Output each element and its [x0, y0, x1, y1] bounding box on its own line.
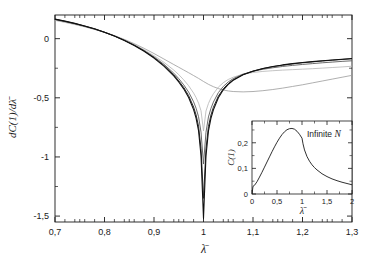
inset-x-axis-title: λ̄ [299, 205, 307, 216]
x-tick-label: 0,9 [148, 227, 161, 237]
y-axis-title: dC(1)/dλ̄ [6, 96, 19, 138]
y-axis-title-group: dC(1)/dλ̄ [6, 96, 19, 138]
inset-y-axis-title: C(1) [226, 149, 236, 166]
inset-y-tick-label: 0 [244, 190, 248, 199]
x-tick-label: 0,7 [49, 227, 62, 237]
x-tick-label: 1,1 [247, 227, 260, 237]
x-tick-label: 0,8 [98, 227, 111, 237]
inset-x-tick-label: 0,5 [272, 197, 282, 206]
y-tick-label: -1,5 [33, 211, 49, 221]
chart-svg: 0,70,80,911,11,21,30-0,5-1-1,5λ̄dC(1)/dλ… [0, 0, 380, 272]
figure-container: 0,70,80,911,11,21,30-0,5-1-1,5λ̄dC(1)/dλ… [0, 0, 380, 272]
y-tick-label: 0 [44, 34, 49, 44]
x-tick-label: 1 [201, 227, 206, 237]
inset-x-tick-label: 1,5 [322, 197, 332, 206]
inset-y-tick-label: 0,2 [238, 139, 248, 148]
inset-x-tick-label: 2 [350, 197, 354, 206]
y-tick-label: -0,5 [33, 93, 49, 103]
inset-y-axis-title-group: C(1) [226, 149, 236, 166]
inset-annotation: Infinite N [307, 129, 341, 139]
inset-x-tick-label: 0 [250, 197, 254, 206]
inset-y-tick-label: 0,1 [238, 164, 248, 173]
y-tick-label: -1 [41, 152, 49, 162]
curve-series-1 [55, 20, 352, 131]
x-axis-title: λ̄ [200, 242, 209, 256]
x-tick-label: 1,2 [296, 227, 309, 237]
x-tick-label: 1,3 [346, 227, 359, 237]
